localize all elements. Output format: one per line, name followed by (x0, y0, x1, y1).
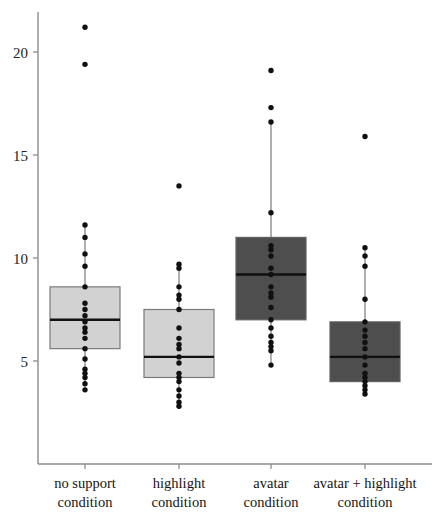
boxplot-1 (50, 25, 120, 393)
data-point (362, 253, 367, 258)
data-point (268, 325, 273, 330)
y-tick-label: 20 (13, 45, 28, 61)
x-tick-label-4: avatar + highlightcondition (313, 475, 416, 510)
boxplot-4 (330, 134, 400, 397)
data-point (82, 367, 87, 372)
data-point (268, 340, 273, 345)
data-point (176, 387, 181, 392)
data-point (268, 243, 273, 248)
data-point (82, 356, 87, 361)
data-point (268, 334, 273, 339)
data-point (82, 313, 87, 318)
data-point (268, 210, 273, 215)
data-point (268, 68, 273, 73)
data-point (176, 325, 181, 330)
data-point (362, 134, 367, 139)
data-point (362, 340, 367, 345)
y-axis: 5101520 (13, 12, 38, 464)
x-tick-labels: no supportconditionhighlightconditionava… (54, 475, 416, 510)
data-point (176, 284, 181, 289)
data-point (82, 381, 87, 386)
boxplot-2 (144, 183, 214, 409)
data-point (176, 354, 181, 359)
data-point (82, 222, 87, 227)
data-point (268, 105, 273, 110)
boxplot-figure: 5101520 no supportconditionhighlightcond… (0, 0, 440, 516)
data-point (268, 266, 273, 271)
x-tick-label-3: avatarcondition (244, 475, 300, 510)
x-tick-label-line: condition (58, 494, 114, 510)
data-point (176, 336, 181, 341)
x-tick-label-1: no supportcondition (54, 475, 116, 510)
data-point (268, 253, 273, 258)
data-point (176, 360, 181, 365)
data-point (268, 272, 273, 277)
x-tick-label-2: highlightcondition (152, 475, 208, 510)
y-tick-label: 5 (21, 354, 29, 370)
x-tick-label-line: condition (338, 494, 394, 510)
data-point (176, 292, 181, 297)
boxplot-3 (236, 68, 306, 368)
x-axis (38, 464, 432, 469)
data-point (82, 387, 87, 392)
data-point (176, 342, 181, 347)
x-tick-label-line: avatar + highlight (313, 475, 416, 491)
data-point (362, 362, 367, 367)
plot-canvas: 5101520 no supportconditionhighlightcond… (0, 0, 440, 516)
data-point (82, 62, 87, 67)
x-tick-label-line: no support (54, 475, 116, 491)
data-point (176, 307, 181, 312)
x-tick-label-line: avatar (253, 475, 289, 491)
data-point (268, 290, 273, 295)
x-tick-label-line: highlight (153, 475, 205, 491)
data-point (176, 400, 181, 405)
data-point (362, 346, 367, 351)
data-point (268, 305, 273, 310)
data-point (362, 354, 367, 359)
data-point (362, 245, 367, 250)
x-tick-label-line: condition (244, 494, 300, 510)
data-point (268, 317, 273, 322)
x-tick-label-line: condition (152, 494, 208, 510)
data-point (362, 327, 367, 332)
y-tick-label: 15 (13, 148, 28, 164)
data-point (82, 301, 87, 306)
data-point (82, 346, 87, 351)
data-point (82, 264, 87, 269)
data-point (176, 183, 181, 188)
data-point (362, 334, 367, 339)
data-point (82, 251, 87, 256)
data-point (176, 371, 181, 376)
data-point (82, 235, 87, 240)
data-point (362, 264, 367, 269)
data-point (82, 325, 87, 330)
data-point (82, 336, 87, 341)
data-point (362, 371, 367, 376)
data-point (82, 307, 87, 312)
data-point (268, 284, 273, 289)
data-point (82, 25, 87, 30)
data-point (176, 393, 181, 398)
data-point (82, 319, 87, 324)
data-point (176, 261, 181, 266)
data-point (268, 362, 273, 367)
y-tick-label: 10 (13, 251, 28, 267)
data-point (362, 297, 367, 302)
data-point (268, 119, 273, 124)
box-series (50, 25, 400, 409)
data-point (82, 284, 87, 289)
data-point (362, 319, 367, 324)
